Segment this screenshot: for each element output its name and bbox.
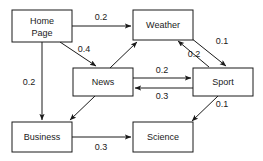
node-sport-label: Sport [212, 77, 234, 87]
transition-graph-diagram: 0.2 0.4 0.2 0.2 0.3 0.1 0.2 0.1 0.3 H [0, 0, 263, 161]
edge-label-home-to-weather: 0.2 [95, 12, 108, 22]
node-science-label: Science [147, 132, 179, 142]
edge-label-home-to-business: 0.2 [23, 77, 36, 87]
edge-label-sport-to-news: 0.3 [156, 91, 169, 101]
node-news-label: News [92, 77, 115, 87]
edge-label-business-to-science: 0.3 [95, 142, 108, 152]
edge-news-to-weather [110, 42, 137, 68]
edge-label-news-to-sport: 0.2 [156, 65, 169, 75]
edge-label-weather-to-sport: 0.1 [216, 36, 229, 46]
node-weather-label: Weather [146, 20, 180, 30]
edge-label-home-to-news: 0.4 [78, 44, 91, 54]
node-home-page-label-line2: Page [31, 28, 52, 38]
edge-sport-to-science [192, 96, 218, 121]
edge-news-to-business [70, 96, 95, 120]
node-business-label: Business [24, 132, 61, 142]
node-home-page-label-line1: Home [30, 16, 54, 26]
edge-label-sport-to-weather: 0.2 [188, 49, 201, 59]
edge-label-sport-to-science: 0.1 [216, 99, 229, 109]
graph-canvas: 0.2 0.4 0.2 0.2 0.3 0.1 0.2 0.1 0.3 H [0, 0, 263, 161]
